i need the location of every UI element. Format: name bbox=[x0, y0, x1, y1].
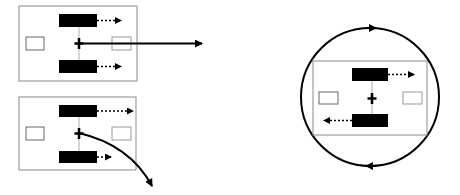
top-bar bbox=[59, 105, 97, 117]
right-pad bbox=[112, 127, 131, 140]
panel-translation bbox=[19, 6, 202, 81]
left-pad bbox=[319, 92, 338, 104]
bottom-bar bbox=[59, 60, 97, 73]
panel-curved bbox=[19, 97, 152, 186]
left-pad bbox=[26, 127, 44, 140]
top-bar bbox=[59, 14, 97, 27]
diagram-canvas bbox=[0, 0, 460, 195]
bottom-bar bbox=[352, 114, 388, 127]
panel-rotation bbox=[301, 28, 439, 166]
right-pad bbox=[403, 92, 422, 104]
top-bar bbox=[352, 68, 388, 81]
left-pad bbox=[26, 37, 44, 50]
bottom-bar bbox=[59, 151, 97, 163]
